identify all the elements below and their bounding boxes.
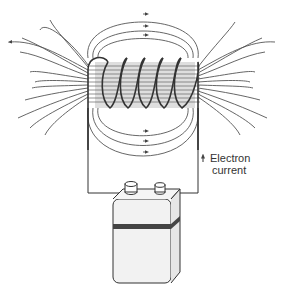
left-field-lines [10,20,88,135]
diagram-canvas [0,0,285,289]
electron-current-label: Electron current [210,152,250,176]
label-line-1: Electron [210,152,250,164]
top-field-loops [88,14,199,58]
battery [113,182,180,284]
right-field-lines [198,22,275,135]
label-line-2: current [210,164,250,176]
solenoid-diagram: Electron current [0,0,285,289]
bottom-field-loops [88,108,199,156]
wires [88,108,203,193]
